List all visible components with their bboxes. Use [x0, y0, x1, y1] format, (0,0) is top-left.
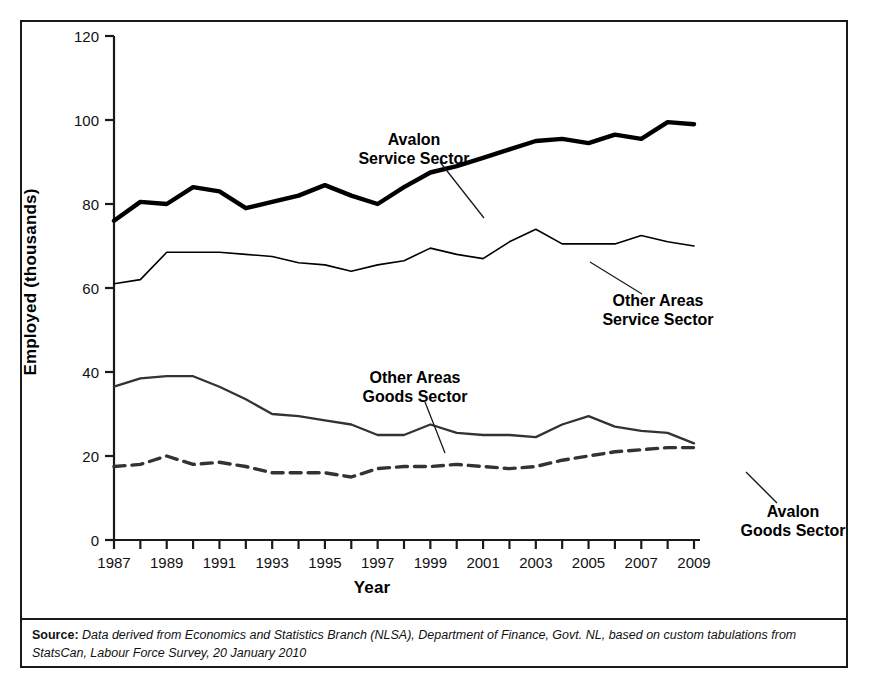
annotation-label: Other AreasService Sector: [602, 292, 713, 328]
x-tick-label: 2003: [519, 554, 552, 571]
series-line-other-areas-service-sector: [114, 229, 694, 284]
line-chart: 0204060801001201987198919911993199519971…: [22, 22, 846, 614]
x-tick-label: 1991: [203, 554, 236, 571]
x-tick-label: 2007: [625, 554, 658, 571]
y-tick-label: 120: [74, 28, 99, 45]
annotation-label: Other AreasGoods Sector: [363, 369, 468, 405]
x-tick-label: 2001: [466, 554, 499, 571]
x-tick-label: 1987: [97, 554, 130, 571]
series-line-other-areas-goods-sector: [114, 376, 694, 443]
annotation-leader-line: [746, 472, 777, 503]
annotation-leader-line: [440, 162, 484, 218]
x-tick-label: 1999: [414, 554, 447, 571]
chart-plot-area: 0204060801001201987198919911993199519971…: [22, 22, 846, 614]
y-tick-label: 0: [91, 532, 99, 549]
annotation-leader-line: [590, 262, 642, 294]
source-body: Data derived from Economics and Statisti…: [32, 628, 796, 660]
y-tick-label: 100: [74, 112, 99, 129]
annotation-other-areas-goods-sector: Other AreasGoods Sector: [363, 369, 468, 453]
series-line-avalon-goods-sector: [114, 448, 694, 477]
figure-panel: 0204060801001201987198919911993199519971…: [20, 20, 848, 668]
y-tick-label: 20: [82, 448, 99, 465]
annotation-other-areas-service-sector: Other AreasService Sector: [590, 262, 714, 328]
x-axis-title: Year: [22, 578, 722, 598]
x-tick-label: 2009: [677, 554, 710, 571]
x-tick-label: 1989: [150, 554, 183, 571]
y-tick-label: 60: [82, 280, 99, 297]
x-tick-label: 1993: [255, 554, 288, 571]
source-label: Source:: [32, 628, 79, 642]
x-tick-label: 1997: [361, 554, 394, 571]
y-tick-label: 40: [82, 364, 99, 381]
y-axis-title: Employed (thousands): [21, 188, 41, 375]
source-text-line: Source: Data derived from Economics and …: [32, 626, 836, 662]
y-tick-label: 80: [82, 196, 99, 213]
x-tick-label: 1995: [308, 554, 341, 571]
annotation-avalon-goods-sector: AvalonGoods Sector: [741, 472, 846, 539]
annotation-label: AvalonGoods Sector: [741, 503, 846, 539]
y-axis-title-wrap: Employed (thousands): [16, 22, 46, 542]
x-tick-label: 2005: [572, 554, 605, 571]
annotation-label: AvalonService Sector: [358, 131, 469, 167]
source-note: Source: Data derived from Economics and …: [22, 620, 846, 666]
